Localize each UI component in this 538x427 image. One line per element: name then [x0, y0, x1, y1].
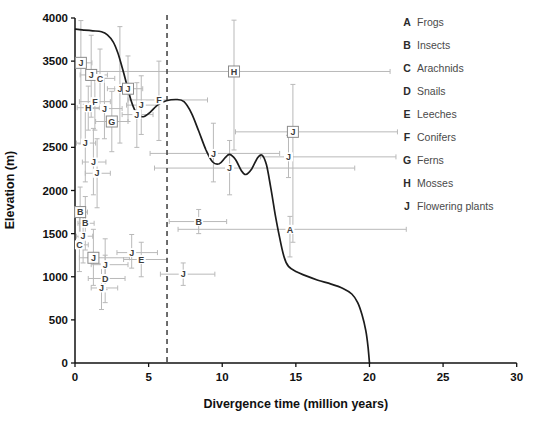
legend-label-J: Flowering plants	[417, 200, 493, 212]
data-point-F-12: F	[156, 95, 162, 105]
data-point-J-19: J	[290, 127, 295, 137]
legend-label-G: Ferns	[417, 154, 444, 166]
data-point-J-11: J	[134, 110, 139, 120]
data-point-J-26: J	[91, 253, 96, 263]
legend-label-H: Mosses	[417, 177, 453, 189]
data-point-J-3: J	[117, 84, 122, 94]
elevation-divergence-chart: 0500100015002000250030003500400005101520…	[0, 0, 538, 427]
data-point-B-24: B	[195, 217, 202, 227]
legend-label-B: Insects	[417, 39, 450, 51]
x-tick-label: 15	[289, 371, 302, 383]
y-tick-label: 4000	[42, 12, 68, 24]
error-bars-A-25	[178, 216, 406, 257]
error-bars-J-0	[76, 21, 92, 144]
data-point-H-7: H	[85, 103, 92, 113]
legend-key-B: B	[403, 39, 411, 51]
legend-key-J: J	[404, 200, 410, 212]
legend-label-A: Frogs	[417, 16, 444, 28]
data-point-B-20: B	[77, 207, 84, 217]
data-point-B-21: B	[82, 218, 89, 228]
error-bars-J-19	[235, 84, 397, 242]
legend-label-C: Arachnids	[417, 62, 464, 74]
data-point-G-9: G	[108, 117, 115, 127]
y-tick-label: 0	[62, 357, 68, 369]
data-point-J-10: J	[139, 100, 144, 110]
error-bars-J-18	[261, 135, 396, 177]
data-point-H-5: H	[231, 67, 238, 77]
data-point-C-2: C	[97, 74, 104, 84]
data-point-J-32: J	[181, 269, 186, 279]
legend-key-H: H	[403, 177, 411, 189]
data-point-F-6: F	[92, 97, 98, 107]
legend: AFrogsBInsectsCArachnidsDSnailsELeechesF…	[403, 16, 494, 212]
x-tick-label: 20	[363, 371, 376, 383]
legend-key-G: G	[403, 154, 411, 166]
data-point-J-29: J	[103, 260, 108, 270]
x-tick-label: 5	[145, 371, 152, 383]
data-point-J-31: J	[99, 283, 104, 293]
legend-key-E: E	[403, 108, 410, 120]
legend-key-D: D	[403, 85, 411, 97]
y-tick-label: 2500	[42, 141, 68, 153]
x-tick-label: 30	[510, 371, 523, 383]
x-tick-label: 0	[72, 371, 78, 383]
data-point-J-8: J	[102, 104, 107, 114]
data-point-J-4: J	[125, 84, 130, 94]
y-tick-label: 1000	[42, 271, 68, 283]
data-point-J-14: J	[91, 157, 96, 167]
legend-key-F: F	[404, 131, 411, 143]
legend-label-F: Conifers	[417, 131, 456, 143]
data-point-J-15: J	[95, 168, 100, 178]
x-tick-label: 10	[216, 371, 229, 383]
y-axis-title: Elevation (m)	[3, 151, 17, 230]
y-tick-label: 2000	[42, 185, 68, 197]
x-axis-title: Divergence time (million years)	[203, 397, 388, 411]
x-tick-label: 25	[437, 371, 450, 383]
data-point-E-28: E	[138, 255, 144, 265]
error-bars-H-5	[96, 20, 390, 150]
data-point-J-0: J	[78, 58, 83, 68]
data-point-J-17: J	[227, 163, 232, 173]
y-tick-label: 3000	[42, 98, 68, 110]
data-point-J-13: J	[83, 138, 88, 148]
data-point-C-23: C	[76, 240, 83, 250]
data-point-J-1: J	[89, 70, 94, 80]
y-tick-label: 500	[49, 314, 68, 326]
legend-key-C: C	[403, 62, 411, 74]
legend-key-A: A	[403, 16, 411, 28]
data-point-J-27: J	[129, 248, 134, 258]
chart-canvas: 0500100015002000250030003500400005101520…	[0, 0, 538, 427]
data-point-A-25: A	[287, 225, 294, 235]
y-tick-label: 3500	[42, 55, 68, 67]
y-tick-label: 1500	[42, 228, 68, 240]
data-point-J-18: J	[286, 152, 291, 162]
error-bars-J-17	[155, 140, 355, 194]
data-point-J-16: J	[211, 149, 216, 159]
legend-label-D: Snails	[417, 85, 446, 97]
legend-label-E: Leeches	[417, 108, 457, 120]
